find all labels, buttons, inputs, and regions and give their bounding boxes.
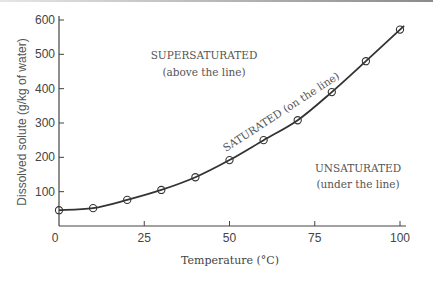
x-tick-label: 25: [138, 231, 152, 245]
y-tick-label: 200: [35, 150, 55, 164]
y-tick-label: 300: [35, 116, 55, 130]
y-tick-label: 500: [35, 47, 55, 61]
saturated-label: SATURATED (on the line): [221, 69, 342, 153]
x-tick-label: 100: [390, 231, 410, 245]
annotation-unsaturated: UNSATURATED (under the line): [315, 162, 401, 190]
supersaturated-label: SUPERSATURATED: [151, 49, 258, 61]
y-ticks: 100200300400500600: [35, 13, 64, 199]
supersaturated-sublabel: (above the line): [162, 66, 245, 78]
x-tick-label: 50: [223, 231, 237, 245]
solubility-chart: 100200300400500600 0255075100 Dissolved …: [0, 0, 433, 282]
x-tick-label: 75: [308, 231, 322, 245]
annotation-supersaturated: SUPERSATURATED (above the line): [151, 49, 258, 78]
y-tick-label: 100: [35, 185, 55, 199]
unsaturated-sublabel: (under the line): [316, 178, 399, 190]
unsaturated-label: UNSATURATED: [315, 162, 401, 174]
axes: [59, 16, 406, 226]
x-axis-title: Temperature (°C): [181, 254, 279, 267]
x-ticks: 0255075100: [52, 221, 411, 245]
y-axis-title: Dissolved solute (g/kg of water): [15, 38, 29, 205]
y-tick-label: 400: [35, 82, 55, 96]
x-tick-label: 0: [52, 231, 59, 245]
y-tick-label: 600: [35, 13, 55, 27]
